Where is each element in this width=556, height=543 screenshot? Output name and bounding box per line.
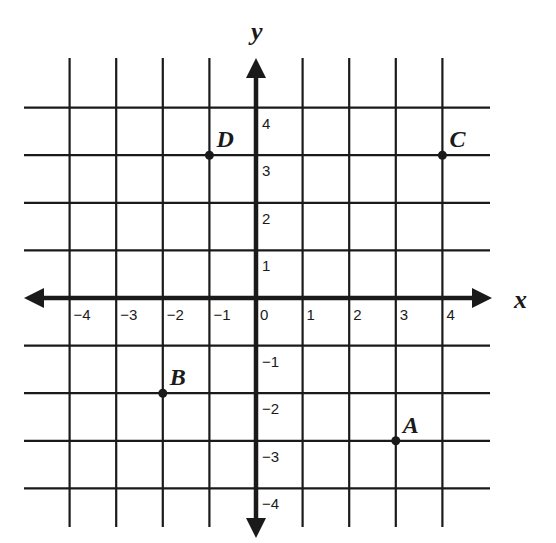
point-label: D [215,126,233,152]
point-marker [438,151,447,160]
y-tick-label: 2 [262,210,270,227]
x-tick-label: 1 [307,306,315,323]
point-label: B [169,364,186,390]
y-tick-label: 4 [262,115,270,132]
coordinate-plane: −4−3−2−1012344321−1−2−3−4 ABCD y x [0,0,556,543]
y-tick-label: −3 [262,448,279,465]
point-label: A [401,412,419,438]
point-label: C [449,126,466,152]
x-tick-label: 2 [353,306,361,323]
x-tick-label: −3 [120,306,137,323]
axes [24,58,492,538]
x-tick-label: −2 [167,306,184,323]
x-tick-label: 3 [400,306,408,323]
x-tick-label: 4 [446,306,454,323]
y-tick-label: −4 [262,495,279,512]
x-axis-left-arrow-icon [24,288,44,308]
point-marker [158,389,167,398]
y-axis-up-arrow-icon [246,58,266,78]
y-tick-label: −2 [262,400,279,417]
plotted-points: ABCD [158,126,466,445]
point-marker [205,151,214,160]
y-tick-label: 3 [262,162,270,179]
y-tick-label: 1 [262,257,270,274]
x-tick-label: 0 [260,306,268,323]
x-axis-right-arrow-icon [472,288,492,308]
x-axis-label: x [513,285,527,314]
point-marker [391,436,400,445]
y-axis-label: y [248,17,263,46]
y-tick-label: −1 [262,353,279,370]
y-axis-down-arrow-icon [246,518,266,538]
tick-labels: −4−3−2−1012344321−1−2−3−4 [74,115,455,513]
x-tick-label: −4 [74,306,91,323]
x-tick-label: −1 [213,306,230,323]
